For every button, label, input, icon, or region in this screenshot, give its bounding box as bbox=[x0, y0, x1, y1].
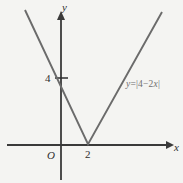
y-axis-label: y bbox=[62, 2, 67, 13]
y-axis bbox=[57, 11, 65, 180]
coordinate-plot bbox=[0, 0, 183, 183]
equation-bar-close: | bbox=[158, 79, 160, 89]
graph-figure: y x 4 2 O y=|4−2x| bbox=[0, 0, 183, 183]
x-axis-label: x bbox=[174, 142, 179, 153]
x-tick-label-2: 2 bbox=[85, 149, 91, 160]
origin-label: O bbox=[47, 150, 55, 161]
x-axis bbox=[7, 141, 174, 149]
curve-equation-label: y=|4−2x| bbox=[126, 80, 160, 90]
x-axis-arrowhead bbox=[166, 141, 174, 149]
y-tick-label-4: 4 bbox=[45, 73, 51, 84]
